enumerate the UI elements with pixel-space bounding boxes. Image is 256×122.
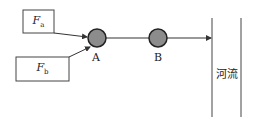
source-label-fb: Fb — [16, 61, 69, 76]
edge-fb-a — [69, 47, 90, 57]
edge-fa-a — [54, 33, 87, 37]
node-a-circle — [88, 29, 106, 47]
river-label: 河流 — [216, 65, 238, 81]
node-a-label: A — [92, 51, 100, 64]
node-b-label: B — [154, 51, 162, 64]
node-b-circle — [149, 29, 167, 47]
source-label-fa: Fa — [23, 14, 54, 29]
